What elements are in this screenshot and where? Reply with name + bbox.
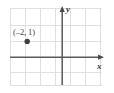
y-axis-arrow-icon bbox=[60, 6, 65, 12]
coordinate-plane-svg bbox=[0, 0, 114, 93]
coordinate-plane-figure: y x (–2, 1) bbox=[0, 0, 114, 93]
x-axis bbox=[10, 55, 104, 60]
point-coordinate-label: (–2, 1) bbox=[13, 28, 35, 37]
y-axis bbox=[60, 6, 65, 85]
x-axis-arrow-icon bbox=[98, 55, 104, 60]
grid-lines-horizontal bbox=[10, 9, 102, 86]
y-axis-label: y bbox=[66, 5, 70, 14]
plotted-point bbox=[25, 39, 30, 44]
grid-lines-vertical bbox=[11, 8, 101, 85]
x-axis-label: x bbox=[97, 62, 102, 71]
